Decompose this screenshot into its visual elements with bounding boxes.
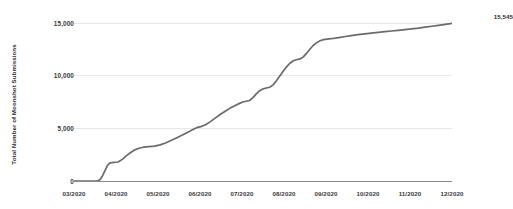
x-tick-label-05-2020: 05/2020 — [146, 190, 169, 197]
x-tick-label-11-2020: 11/2020 — [399, 190, 422, 197]
x-tick-label-07-2020: 07/2020 — [230, 190, 253, 197]
x-tick-label-04-2020: 04/2020 — [104, 190, 127, 197]
x-tick-label-12-2020: 12/2020 — [440, 190, 463, 197]
x-tick-label-08-2020: 08/2020 — [272, 190, 295, 197]
x-tick-label-09-2020: 09/2020 — [314, 190, 337, 197]
x-tick-label-10-2020: 10/2020 — [356, 190, 379, 197]
x-tick-label-03-2020: 03/2020 — [62, 190, 85, 197]
x-tick-label-06-2020: 06/2020 — [188, 190, 211, 197]
end-point-value-label: 15,545 — [494, 13, 513, 20]
